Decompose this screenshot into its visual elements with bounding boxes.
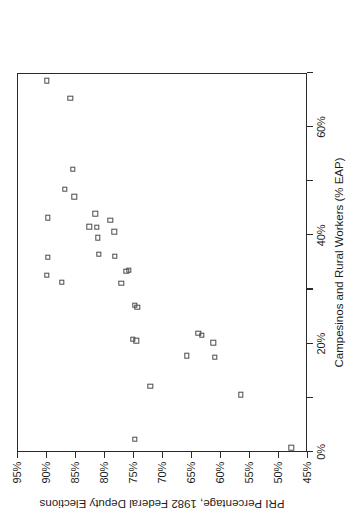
y-tick <box>104 452 105 458</box>
data-point <box>44 272 49 277</box>
x-tick-label: 40% <box>315 225 327 246</box>
x-axis-title: Campesinos and Rural Workers (% EAP) <box>333 73 345 452</box>
y-tick <box>307 452 308 458</box>
data-point <box>67 95 72 100</box>
y-tick <box>249 452 250 458</box>
x-tick-label: 60% <box>315 116 327 137</box>
y-tick <box>162 452 163 458</box>
x-tick <box>307 343 313 344</box>
plot-frame <box>17 73 307 452</box>
x-tick <box>307 180 313 181</box>
data-point <box>92 211 97 216</box>
data-point <box>44 78 49 83</box>
y-axis-title: PRI Percentage, 1982 Federal Deputy Elec… <box>17 498 307 510</box>
x-tick <box>307 234 313 235</box>
y-tick <box>191 452 192 458</box>
data-point <box>134 338 139 343</box>
data-point <box>112 253 117 258</box>
data-point <box>124 269 129 274</box>
data-point <box>199 332 204 337</box>
data-point <box>288 445 293 450</box>
data-point <box>211 340 216 345</box>
y-tick-label: 60% <box>214 462 226 483</box>
x-tick <box>307 72 313 73</box>
data-point <box>112 229 117 234</box>
y-tick <box>17 452 18 458</box>
x-tick-label: 20% <box>315 333 327 354</box>
y-tick-label: 80% <box>98 462 110 483</box>
data-point <box>135 304 140 309</box>
scatter-plot-figure: 0%20%40%60% 95%90%85%80%75%70%65%60%55%5… <box>0 0 356 524</box>
data-point <box>72 194 77 199</box>
data-point <box>96 252 101 257</box>
data-point <box>238 392 243 397</box>
data-point <box>45 215 50 220</box>
data-point <box>62 187 67 192</box>
y-tick-label: 95% <box>11 462 23 483</box>
x-tick <box>307 288 313 289</box>
data-point <box>59 279 64 284</box>
data-point <box>184 353 189 358</box>
y-tick-label: 65% <box>185 462 197 483</box>
data-point <box>132 436 137 441</box>
data-point <box>95 235 100 240</box>
y-tick-label: 85% <box>69 462 81 483</box>
y-tick <box>75 452 76 458</box>
y-tick-label: 70% <box>156 462 168 483</box>
y-tick-label: 45% <box>301 462 313 483</box>
y-tick <box>220 452 221 458</box>
data-point <box>119 280 124 285</box>
x-tick-label: 0% <box>315 444 327 460</box>
data-point <box>108 218 113 223</box>
y-tick-label: 90% <box>40 462 52 483</box>
y-tick-label: 75% <box>127 462 139 483</box>
x-tick <box>307 126 313 127</box>
y-tick-label: 50% <box>272 462 284 483</box>
data-point <box>70 167 75 172</box>
plot-stack: 0%20%40%60% 95%90%85%80%75%70%65%60%55%5… <box>0 0 356 524</box>
y-tick <box>278 452 279 458</box>
data-point <box>148 383 153 388</box>
y-tick <box>46 452 47 458</box>
y-tick <box>133 452 134 458</box>
data-point <box>87 224 92 229</box>
data-point <box>94 225 99 230</box>
x-tick <box>307 397 313 398</box>
data-point <box>212 355 217 360</box>
data-point <box>45 254 50 259</box>
y-tick-label: 55% <box>243 462 255 483</box>
rotated-plot-wrapper: 0%20%40%60% 95%90%85%80%75%70%65%60%55%5… <box>0 0 356 524</box>
